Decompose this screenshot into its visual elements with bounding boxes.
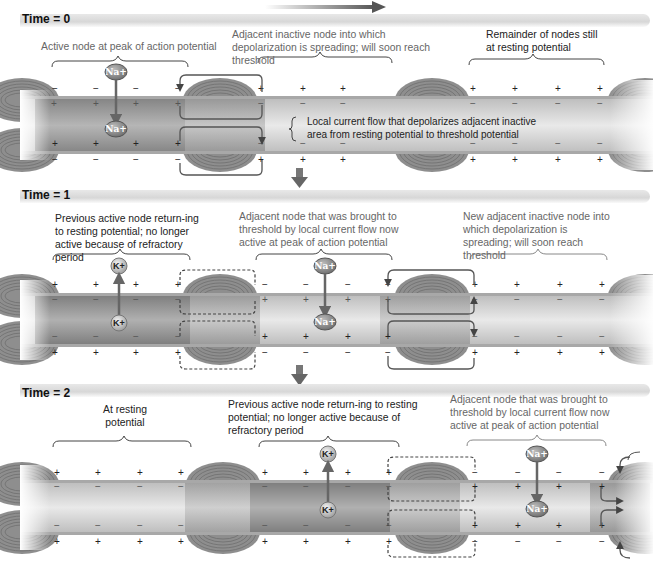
svg-text:+: +	[262, 467, 268, 478]
svg-text:+: +	[137, 467, 143, 478]
svg-text:−: −	[303, 279, 309, 290]
svg-text:K+: K+	[322, 505, 334, 515]
svg-text:Na+: Na+	[314, 261, 336, 271]
svg-text:+: +	[93, 138, 99, 149]
svg-text:+: +	[470, 154, 476, 165]
svg-text:−: −	[300, 138, 306, 149]
svg-text:+: +	[95, 467, 101, 478]
svg-text:−: −	[262, 481, 268, 492]
svg-text:−: −	[470, 98, 476, 109]
svg-text:−: −	[303, 347, 309, 358]
svg-text:+: +	[386, 467, 392, 478]
svg-text:−: −	[133, 83, 139, 94]
svg-text:−: −	[599, 294, 605, 305]
svg-text:−: −	[54, 481, 60, 492]
potassium-ion-outside: K+	[320, 446, 336, 462]
svg-text:−: −	[345, 347, 351, 358]
svg-text:−: −	[555, 138, 561, 149]
svg-text:−: −	[515, 536, 521, 547]
svg-text:−: −	[599, 331, 605, 342]
svg-text:−: −	[137, 481, 143, 492]
svg-text:−: −	[137, 520, 143, 531]
svg-text:−: −	[345, 279, 351, 290]
svg-text:Na+: Na+	[314, 317, 336, 327]
svg-text:+: +	[54, 536, 60, 547]
svg-text:−: −	[386, 520, 392, 531]
svg-text:+: +	[262, 536, 268, 547]
svg-text:+: +	[52, 138, 58, 149]
caption: Adjacent node that was brought to thresh…	[239, 210, 399, 249]
svg-text:+: +	[557, 347, 563, 358]
svg-text:+: +	[472, 347, 478, 358]
svg-text:−: −	[93, 83, 99, 94]
svg-text:+: +	[597, 83, 603, 94]
svg-text:−: −	[52, 331, 58, 342]
svg-text:+: +	[303, 536, 309, 547]
right-arrow-icon	[265, 1, 386, 13]
svg-text:+: +	[300, 83, 306, 94]
caption: Previous active node return-ing to resti…	[228, 398, 418, 437]
svg-text:−: −	[258, 98, 264, 109]
svg-text:+: +	[93, 347, 99, 358]
svg-text:−: −	[175, 331, 181, 342]
sodium-ion-inside: Na+	[526, 501, 548, 517]
time-label: Time = 2	[22, 386, 70, 400]
sodium-ion-outside: Na+	[526, 446, 548, 462]
svg-text:−: −	[262, 279, 268, 290]
svg-text:+: +	[514, 279, 520, 290]
svg-text:K+: K+	[113, 318, 125, 328]
svg-text:+: +	[262, 331, 268, 342]
caption: At resting potential	[95, 403, 155, 429]
svg-text:−: −	[514, 294, 520, 305]
potassium-ion-inside: K+	[320, 502, 336, 518]
svg-text:+: +	[556, 481, 562, 492]
diagram-canvas: −−−− +++ ++++ ++++ −−− −−−− ++++ −−− −−−…	[0, 0, 653, 565]
svg-text:−: −	[345, 481, 351, 492]
time-bar	[20, 14, 650, 27]
svg-text:+: +	[512, 154, 518, 165]
svg-text:+: +	[555, 83, 561, 94]
svg-text:−: −	[472, 331, 478, 342]
svg-text:+: +	[515, 481, 521, 492]
svg-text:+: +	[137, 536, 143, 547]
svg-text:+: +	[133, 138, 139, 149]
svg-text:Na+: Na+	[526, 504, 548, 514]
svg-text:−: −	[52, 83, 58, 94]
svg-text:+: +	[599, 481, 605, 492]
svg-text:−: −	[178, 520, 184, 531]
svg-text:−: −	[133, 154, 139, 165]
svg-text:Na+: Na+	[526, 449, 548, 459]
svg-text:+: +	[599, 520, 605, 531]
svg-text:−: −	[514, 331, 520, 342]
svg-text:−: −	[52, 294, 58, 305]
svg-text:−: −	[175, 294, 181, 305]
down-arrow-icon	[291, 365, 308, 386]
svg-text:+: +	[178, 536, 184, 547]
svg-text:+: +	[340, 154, 346, 165]
svg-text:+: +	[340, 83, 346, 94]
svg-text:+: +	[597, 154, 603, 165]
svg-text:+: +	[262, 294, 268, 305]
caption: Adjacent node that was brought to thresh…	[450, 393, 610, 432]
svg-text:−: −	[93, 331, 99, 342]
panel-time-1: ++++ −−−− ++++ −−−− ++++ −−−− −−−− ++++ …	[0, 249, 653, 369]
svg-text:−: −	[597, 138, 603, 149]
svg-text:+: +	[51, 98, 57, 109]
svg-text:+: +	[512, 83, 518, 94]
svg-text:−: −	[262, 347, 268, 358]
svg-text:−: −	[93, 294, 99, 305]
svg-text:−: −	[303, 481, 309, 492]
svg-text:−: −	[178, 481, 184, 492]
caption: Previous active node return-ing to resti…	[55, 212, 205, 264]
svg-text:+: +	[93, 98, 99, 109]
svg-text:−: −	[597, 98, 603, 109]
svg-text:+: +	[515, 520, 521, 531]
svg-text:+: +	[133, 279, 139, 290]
time-bar	[20, 190, 650, 203]
svg-text:+: +	[386, 536, 392, 547]
svg-text:−: −	[303, 520, 309, 531]
svg-text:+: +	[95, 536, 101, 547]
svg-text:+: +	[599, 347, 605, 358]
svg-text:+: +	[599, 279, 605, 290]
panel-time-2: ++++ ++++ −−−− −−−− −−−− ++++ −−−− −−−− …	[0, 435, 653, 558]
